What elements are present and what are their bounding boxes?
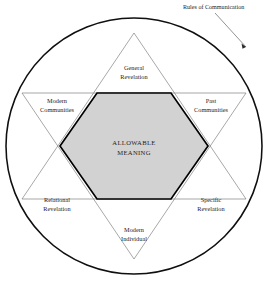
callout-label-rules-of-communication: Rules of Communication xyxy=(183,4,244,10)
sector-label-general-revelation-line1: General xyxy=(124,64,144,71)
center-label-allowable-meaning-line2: MEANING xyxy=(117,149,151,156)
sector-label-general-revelation-line2: Revelation xyxy=(120,73,148,80)
sector-label-past-communities-line2: Communities xyxy=(194,106,228,113)
sector-label-specific-revelation-line2: Revelation xyxy=(197,205,225,212)
sector-label-past-communities-line1: Past xyxy=(206,97,217,104)
sector-label-modern-individual-line2: Individual xyxy=(121,235,147,242)
sector-label-modern-communities-line2: Communities xyxy=(40,106,74,113)
sector-label-relational-revelation-line2: Revelation xyxy=(43,205,71,212)
diagram-root: Rules of Communication General Revelatio… xyxy=(0,0,270,300)
center-label-allowable-meaning-line1: ALLOWABLE xyxy=(112,139,155,146)
star-of-david-diagram: Rules of Communication General Revelatio… xyxy=(0,0,270,300)
allowable-meaning-hexagon xyxy=(60,93,208,199)
sector-label-specific-revelation-line1: Specific xyxy=(201,196,222,203)
sector-label-modern-individual-line1: Modern xyxy=(124,226,145,233)
sector-label-modern-communities-line1: Modern xyxy=(47,97,68,104)
sector-label-relational-revelation-line1: Relational xyxy=(44,196,70,203)
callout-leader-line xyxy=(215,13,246,47)
